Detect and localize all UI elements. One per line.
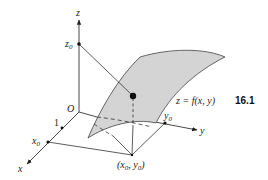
x0-label: x0 (31, 135, 40, 148)
x-axis-label: x (17, 163, 23, 174)
surface-equation: z = f(x, y) (175, 95, 216, 107)
y0-label: y0 (163, 110, 172, 123)
x0-point (46, 140, 49, 143)
base-point (131, 154, 133, 156)
x-tick-1 (61, 127, 64, 130)
z0-point (77, 42, 81, 46)
origin-label: O (67, 103, 74, 114)
y-axis (150, 121, 197, 130)
surface-diagram: z z0 O 1 x0 x y0 y (x0, y0) z = f(x, y) … (0, 0, 268, 180)
z0-label: z0 (64, 38, 73, 51)
figure-number: 16.1 (235, 95, 255, 106)
y0-to-base-line (132, 123, 165, 155)
base-point-label: (x0, y0) (117, 159, 145, 172)
y-axis-near (79, 112, 97, 117)
x0-to-base-line (48, 142, 132, 155)
vertical-below (132, 125, 133, 155)
y-axis-label: y (199, 125, 205, 136)
z-axis-label: z (75, 7, 80, 18)
z0-to-point-line (79, 44, 133, 96)
y0-point (163, 121, 166, 124)
surface-point (130, 93, 136, 99)
x-tick-label: 1 (54, 117, 59, 128)
